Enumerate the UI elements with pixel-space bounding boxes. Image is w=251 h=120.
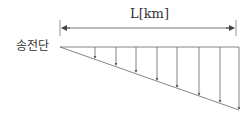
diagram-graphic xyxy=(0,0,251,120)
sending-end-label: 송전단 xyxy=(16,36,49,53)
dimension-line xyxy=(60,20,236,36)
load-arrows xyxy=(95,47,239,109)
length-label: L[km] xyxy=(130,6,169,21)
load-distribution-slope xyxy=(60,47,239,110)
distributed-load-diagram: L[km] 송전단 xyxy=(0,0,251,120)
